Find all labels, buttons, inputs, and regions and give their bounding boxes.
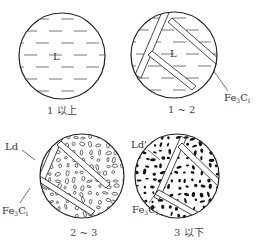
caption-panel-1: 1 以上: [47, 105, 77, 116]
pearlite-particle: [166, 142, 169, 146]
pearlite-particle: [154, 144, 157, 147]
pearlite-particle: [153, 178, 157, 181]
austenite-particle: [103, 171, 107, 175]
panel-transformed-ledeburite: Ld' Fe3CⅠ 3 以下: [131, 134, 230, 238]
pearlite-particle: [208, 184, 212, 190]
panel-circle: [19, 13, 105, 99]
austenite-particle: [107, 213, 110, 217]
pearlite-particle: [167, 136, 170, 139]
austenite-particle: [88, 191, 92, 195]
austenite-particle: [112, 164, 118, 167]
austenite-particle: [79, 192, 83, 197]
pearlite-particle: [167, 157, 170, 160]
austenite-particle: [97, 159, 100, 162]
pearlite-particle: [190, 171, 194, 174]
pearlite-particle: [134, 170, 140, 175]
pearlite-particle: [209, 205, 212, 210]
pearlite-particle: [191, 192, 195, 198]
austenite-particle: [113, 180, 118, 182]
austenite-particle: [43, 199, 46, 202]
austenite-particle: [41, 143, 45, 145]
austenite-particle: [49, 206, 52, 210]
pearlite-particle: [192, 144, 198, 148]
austenite-particle: [107, 165, 110, 167]
austenite-particle: [96, 192, 99, 196]
austenite-particle: [98, 201, 101, 205]
pearlite-particle: [217, 136, 222, 139]
pointer-line: [22, 150, 35, 160]
austenite-particle: [89, 199, 92, 204]
label-fe3c-primary: Fe3CⅠ: [132, 204, 159, 216]
austenite-particle: [122, 193, 125, 197]
pearlite-particle: [143, 168, 147, 174]
phase-label-liquid: L: [53, 51, 60, 62]
label-ld-prime: Ld': [131, 139, 147, 150]
austenite-particle: [64, 186, 66, 189]
pearlite-particle: [146, 158, 150, 161]
pearlite-particle: [199, 192, 204, 198]
austenite-particle: [55, 172, 61, 177]
pearlite-particle: [167, 184, 171, 190]
austenite-particle: [120, 142, 124, 145]
pearlite-particle: [208, 142, 212, 144]
pearlite-particle: [168, 149, 171, 155]
pointer-line: [20, 188, 30, 203]
austenite-particle: [88, 141, 92, 147]
pearlite-particle: [177, 214, 180, 218]
austenite-particle: [40, 205, 43, 209]
pearlite-particle: [198, 212, 203, 216]
pearlite-particle: [200, 184, 205, 188]
pearlite-particle: [159, 142, 163, 148]
austenite-particle: [64, 204, 67, 209]
austenite-particle: [55, 180, 61, 183]
austenite-particle: [102, 191, 108, 194]
austenite-particle: [114, 184, 120, 188]
austenite-particle: [112, 192, 118, 195]
austenite-particle: [95, 144, 101, 148]
austenite-particle: [72, 177, 76, 183]
austenite-particle: [48, 173, 51, 176]
pearlite-particle: [194, 183, 198, 187]
pearlite-particle: [152, 172, 156, 176]
austenite-particle: [123, 185, 126, 190]
pearlite-particle: [201, 135, 204, 140]
pearlite-particle: [169, 205, 172, 209]
austenite-particle: [75, 171, 78, 173]
pearlite-particle: [194, 198, 197, 201]
austenite-particle: [91, 156, 94, 159]
pearlite-particle: [178, 186, 181, 189]
pearlite-particle: [215, 143, 218, 146]
pearlite-particle: [215, 206, 218, 211]
austenite-particle: [121, 136, 123, 142]
austenite-particle: [39, 149, 43, 152]
pearlite-particle: [208, 215, 213, 219]
pearlite-particle: [161, 205, 164, 209]
pearlite-particle: [184, 192, 190, 196]
austenite-particle: [87, 185, 92, 188]
pearlite-particle: [159, 150, 163, 152]
pearlite-particle: [184, 198, 187, 204]
austenite-particle: [81, 137, 86, 139]
pearlite-particle: [209, 159, 215, 163]
label-fe3c-primary: Fe3CⅠ: [2, 205, 29, 217]
pearlite-particle: [213, 149, 220, 153]
austenite-particle: [96, 206, 100, 210]
austenite-particle: [79, 142, 85, 147]
pearlite-particle: [150, 158, 156, 161]
austenite-particle: [64, 156, 67, 159]
pearlite-particle: [161, 156, 165, 160]
pearlite-particle: [152, 191, 155, 194]
panel-liquid: L 1 以上: [0, 13, 112, 116]
panel-ledeburite: Ld Fe3CⅠ 2 ~ 3: [2, 130, 127, 238]
austenite-particle: [113, 206, 116, 211]
pearlite-particle: [170, 211, 173, 216]
pearlite-particle: [200, 156, 203, 160]
caption-panel-4: 3 以下: [174, 227, 204, 238]
austenite-particle: [89, 150, 92, 155]
austenite-particle: [58, 213, 62, 218]
austenite-particle: [74, 136, 79, 139]
pearlite-particle: [153, 135, 157, 139]
pearlite-particle: [177, 193, 181, 196]
pearlite-particle: [144, 186, 146, 189]
austenite-particle: [105, 151, 111, 155]
